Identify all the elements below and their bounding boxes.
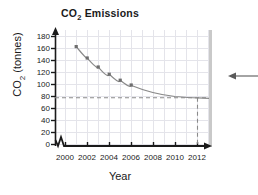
y-axis (51, 27, 59, 146)
sidebar-strip (209, 30, 212, 147)
trend-line-extension (198, 98, 209, 99)
data-point (97, 65, 100, 68)
data-point (75, 45, 78, 48)
data-point (86, 56, 89, 59)
data-point (119, 79, 122, 82)
chart-plot-svg (0, 0, 258, 195)
data-point (130, 83, 133, 86)
callout-arrow-icon (228, 73, 258, 80)
data-point (108, 73, 111, 76)
x-axis (56, 137, 213, 150)
chart-container: CO2 Emissions CO2 (tonnes) Year 180 160 … (0, 0, 258, 195)
data-points (75, 45, 133, 87)
